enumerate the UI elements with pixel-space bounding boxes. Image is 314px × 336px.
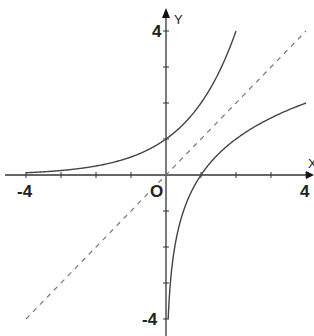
- x-axis-label: X: [308, 156, 314, 171]
- x-tick-label: 4: [300, 182, 310, 201]
- x-tick-label: -4: [17, 182, 33, 201]
- y-axis-label: Y: [174, 12, 183, 27]
- function-graph: Y X O -444-4: [0, 0, 314, 336]
- series-logarithm-line: [168, 103, 306, 319]
- x-axis-arrow-icon: [306, 171, 314, 179]
- origin-label: O: [150, 182, 163, 201]
- y-tick-label: -4: [142, 310, 158, 329]
- y-tick-label: 4: [152, 22, 162, 41]
- y-axis-arrow-icon: [162, 8, 170, 18]
- series-exponential-line: [26, 31, 236, 173]
